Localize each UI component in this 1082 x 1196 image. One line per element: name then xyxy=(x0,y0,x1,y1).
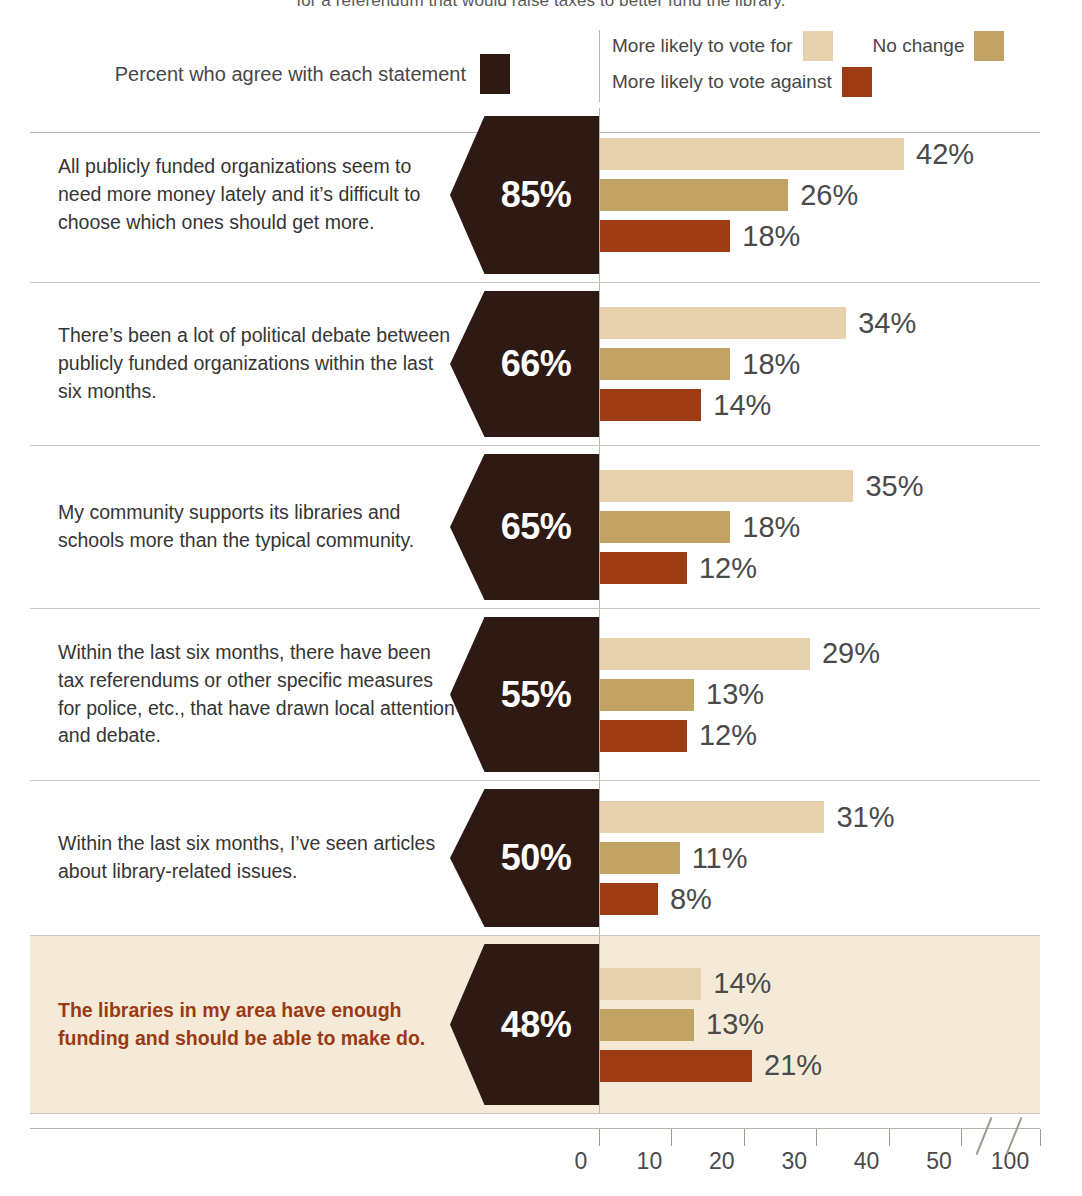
bar-vote-for xyxy=(600,968,701,1000)
bar-no-change xyxy=(600,179,788,211)
statement-text: The libraries in my area have enough fun… xyxy=(58,936,458,1113)
legend-row-top: More likely to vote for No change xyxy=(612,28,1052,64)
agree-percent-value: 65% xyxy=(479,506,572,548)
no-change-legend-swatch xyxy=(974,31,1004,61)
bar-value-no-change: 18% xyxy=(742,511,800,544)
bar-no-change xyxy=(600,511,730,543)
statement-text: Within the last six months, I’ve seen ar… xyxy=(58,781,458,935)
bar-value-vote-against: 21% xyxy=(764,1049,822,1082)
vote-against-legend-swatch xyxy=(842,67,872,97)
bar-vote-against xyxy=(600,552,687,584)
bar-line-no-change: 13% xyxy=(600,679,1040,711)
axis-tick-label: 20 xyxy=(709,1148,735,1175)
agree-percent-arrow: 50% xyxy=(450,789,600,927)
agree-percent-arrow: 48% xyxy=(450,944,600,1105)
bar-line-no-change: 18% xyxy=(600,511,1040,543)
bar-value-vote-for: 31% xyxy=(836,801,894,834)
bar-value-vote-against: 18% xyxy=(742,220,800,253)
chart-title: for a referendum that would raise taxes … xyxy=(0,0,1082,11)
bar-vote-against xyxy=(600,1050,752,1082)
no-change-legend-label: No change xyxy=(873,35,965,57)
bar-group: 34%18%14% xyxy=(600,283,1040,445)
bar-value-vote-for: 42% xyxy=(916,138,974,171)
bar-group: 42%26%18% xyxy=(600,108,1040,282)
axis-tick xyxy=(816,1129,817,1146)
bar-value-no-change: 13% xyxy=(706,678,764,711)
vote-against-legend-label: More likely to vote against xyxy=(612,71,832,93)
vote-legend-group: More likely to vote for No change More l… xyxy=(612,28,1052,100)
bar-line-no-change: 18% xyxy=(600,348,1040,380)
chart-row: There’s been a lot of political debate b… xyxy=(30,283,1040,446)
statement-text: There’s been a lot of political debate b… xyxy=(58,283,458,445)
axis-tick-label: 30 xyxy=(781,1148,807,1175)
bar-value-vote-against: 14% xyxy=(713,389,771,422)
axis-tick-label: 100 xyxy=(991,1148,1029,1175)
bar-line-vote-for: 29% xyxy=(600,638,1040,670)
bar-vote-against xyxy=(600,389,701,421)
legend-divider xyxy=(599,30,600,102)
axis-tick xyxy=(599,1129,600,1146)
bar-no-change xyxy=(600,842,680,874)
bar-line-vote-for: 35% xyxy=(600,470,1040,502)
agree-percent-value: 48% xyxy=(479,1004,572,1046)
bar-line-vote-against: 14% xyxy=(600,389,1040,421)
axis-tick xyxy=(889,1129,890,1146)
bar-value-no-change: 26% xyxy=(800,179,858,212)
bar-vote-against xyxy=(600,883,658,915)
bar-group: 29%13%12% xyxy=(600,609,1040,780)
agree-legend-item: Percent who agree with each statement xyxy=(30,54,510,94)
bar-group: 14%13%21% xyxy=(600,936,1040,1113)
agree-percent-value: 50% xyxy=(479,837,572,879)
chart-row: All publicly funded organizations seem t… xyxy=(30,108,1040,283)
bar-line-no-change: 13% xyxy=(600,1009,1040,1041)
chart-row: My community supports its libraries and … xyxy=(30,446,1040,609)
agree-percent-arrow: 85% xyxy=(450,116,600,274)
bar-value-vote-against: 12% xyxy=(699,719,757,752)
bar-line-vote-for: 14% xyxy=(600,968,1040,1000)
axis-tick xyxy=(744,1129,745,1146)
bar-line-vote-against: 12% xyxy=(600,552,1040,584)
axis-tick xyxy=(671,1129,672,1146)
chart-row: Within the last six months, I’ve seen ar… xyxy=(30,781,1040,936)
bar-vote-against xyxy=(600,720,687,752)
agree-percent-value: 85% xyxy=(479,174,572,216)
agree-percent-arrow: 55% xyxy=(450,617,600,772)
axis-tick-label: 40 xyxy=(854,1148,880,1175)
statement-text: My community supports its libraries and … xyxy=(58,446,458,608)
bar-vote-for xyxy=(600,638,810,670)
axis-tick xyxy=(961,1129,962,1146)
vote-for-legend-swatch xyxy=(803,31,833,61)
bar-value-no-change: 11% xyxy=(692,842,748,875)
agree-percent-arrow: 65% xyxy=(450,454,600,600)
bar-value-vote-for: 34% xyxy=(858,307,916,340)
bar-line-vote-against: 12% xyxy=(600,720,1040,752)
chart-rows: All publicly funded organizations seem t… xyxy=(0,108,1082,1114)
x-axis: 01020304050100 xyxy=(0,1128,1082,1196)
no-change-legend-item: No change xyxy=(873,31,1005,61)
agree-percent-value: 55% xyxy=(479,674,572,716)
bar-line-vote-against: 18% xyxy=(600,220,1040,252)
chart-row: Within the last six months, there have b… xyxy=(30,609,1040,781)
axis-tick xyxy=(1040,1129,1041,1146)
legend-row-bottom: More likely to vote against xyxy=(612,64,1052,100)
bar-vote-for xyxy=(600,470,853,502)
bar-vote-for xyxy=(600,801,824,833)
bar-value-no-change: 18% xyxy=(742,348,800,381)
bar-value-vote-for: 35% xyxy=(865,470,923,503)
bar-line-vote-for: 31% xyxy=(600,801,1040,833)
bar-line-no-change: 26% xyxy=(600,179,1040,211)
bar-group: 31%11%8% xyxy=(600,781,1040,935)
bar-vote-for xyxy=(600,138,904,170)
axis-tick-label: 50 xyxy=(926,1148,952,1175)
bar-value-vote-against: 12% xyxy=(699,552,757,585)
bar-line-vote-against: 8% xyxy=(600,883,1040,915)
bar-value-vote-for: 14% xyxy=(713,967,771,1000)
bar-line-vote-for: 42% xyxy=(600,138,1040,170)
bar-line-vote-against: 21% xyxy=(600,1050,1040,1082)
legend: Percent who agree with each statement Mo… xyxy=(0,28,1082,104)
bar-value-vote-against: 8% xyxy=(670,883,712,916)
bar-line-no-change: 11% xyxy=(600,842,1040,874)
statement-text: Within the last six months, there have b… xyxy=(58,609,458,780)
chart-row: The libraries in my area have enough fun… xyxy=(30,936,1040,1114)
agree-legend-swatch xyxy=(480,54,510,94)
